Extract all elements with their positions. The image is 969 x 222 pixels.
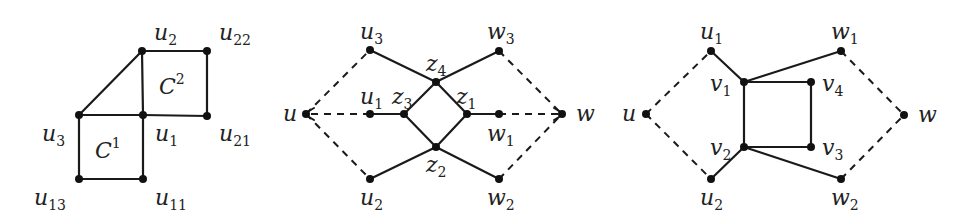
label-subscript: 2 [850,197,859,213]
dashed-edge-u-u2 [306,114,370,179]
label-subscript: 1 [468,96,477,112]
vertex-label-u2: u2 [154,20,177,48]
vertex-w3 [495,47,503,55]
vertex-u22 [203,47,211,55]
vertex-label-u: u [283,101,297,126]
label-subscript: 1 [850,31,859,47]
vertex-v2 [740,143,748,151]
vertex-z4 [432,78,440,86]
cycle-label-C2: C2 [159,71,185,99]
vertex-v3 [807,143,815,151]
vertex-label-v4: v4 [822,71,843,99]
dashed-edge-u-u2 [646,114,711,179]
vertex-w2 [495,175,503,183]
dashed-edge-w1-w [841,51,904,115]
vertex-label-u3: u3 [360,19,383,47]
vertex-label-u21: u21 [219,121,251,149]
vertex-u [302,110,310,118]
label-subscript: 2 [506,197,515,213]
figure-a-two-cycles: u2u22u3u1u21u13u11C2C1 [34,20,251,213]
vertex-label-w: w [576,101,595,126]
edge-u2-u3 [79,51,142,115]
label-subscript: 3 [56,133,65,149]
label-subscript: 2 [714,197,723,213]
vertex-z2 [432,143,440,151]
label-subscript: 3 [374,31,383,47]
label-subscript: 2 [168,32,177,48]
vertex-label-w2: w2 [487,185,515,213]
figure-c-v-cycle-gadget: uu1v1v2u2v4v3w1w2w [622,19,937,213]
vertex-u1 [139,111,147,119]
vertex-u [642,110,650,118]
vertex-label-v1: v1 [710,71,731,99]
vertex-label-w2: w2 [831,185,859,213]
vertex-u21 [203,112,211,120]
label-subscript: 4 [438,63,447,79]
vertex-label-w: w [918,102,937,127]
label-subscript: 2 [722,147,731,163]
vertex-u2 [366,175,374,183]
dashed-edge-w3-w [499,51,562,114]
label-subscript: 1 [506,133,515,149]
label-subscript: 1 [169,133,178,149]
vertex-label-v2: v2 [710,135,731,163]
label-superscript: 1 [112,135,121,151]
vertex-v4 [807,78,815,86]
vertex-label-v3: v3 [822,135,843,163]
dashed-edge-w2-w [841,115,904,179]
label-subscript: 4 [834,83,843,99]
vertex-label-u1: u1 [155,121,178,149]
label-superscript: 2 [176,71,185,87]
edge-z3-z2 [404,114,436,147]
vertex-w [900,111,908,119]
vertex-label-z1: z1 [455,84,477,112]
vertex-label-u1: u1 [360,84,383,112]
label-subscript: 3 [404,96,413,112]
vertex-label-w1: w1 [487,121,515,149]
edge-z1-z2 [436,114,467,147]
edge-u1-u2 [142,51,143,115]
graph-figure-canvas: u2u22u3u1u21u13u11C2C1 uu3u1z3z4z1z2u2w3… [0,0,969,222]
vertex-u11 [139,175,147,183]
vertex-w [558,110,566,118]
cycle-label-C1: C1 [95,135,121,163]
vertex-label-z2: z2 [425,152,447,180]
vertex-label-u3: u3 [42,121,65,149]
label-subscript: 21 [233,133,251,149]
label-subscript: 2 [374,197,383,213]
dashed-edge-u-u1 [646,51,711,114]
vertex-label-u2: u2 [360,185,383,213]
vertex-label-u22: u22 [219,20,251,48]
vertex-label-z4: z4 [425,51,447,79]
vertex-u1 [366,110,374,118]
vertex-u2 [707,175,715,183]
vertex-label-w1: w1 [831,19,859,47]
label-subscript: 11 [169,197,187,213]
label-subscript: 2 [438,164,447,180]
vertex-u2 [138,47,146,55]
label-subscript: 1 [722,83,731,99]
vertex-u1 [707,47,715,55]
vertex-label-u11: u11 [155,185,187,213]
vertex-w1 [837,47,845,55]
vertex-u3 [75,111,83,119]
vertex-label-u: u [622,101,636,126]
vertex-v1 [740,78,748,86]
vertex-w2 [837,175,845,183]
vertex-label-u13: u13 [34,185,66,213]
vertex-label-u2: u2 [700,185,723,213]
label-subscript: 1 [374,96,383,112]
vertex-label-w3: w3 [487,19,515,47]
vertex-label-z3: z3 [391,84,413,112]
label-subscript: 1 [714,31,723,47]
vertex-u3 [366,46,374,54]
vertex-u13 [75,175,83,183]
figure-b-z-cycle-gadget: uu3u1z3z4z1z2u2w3w1w2w [283,19,595,213]
label-subscript: 3 [834,147,843,163]
label-subscript: 3 [506,31,515,47]
edge-u21-u1 [143,115,207,116]
vertex-label-u1: u1 [700,19,723,47]
label-subscript: 22 [233,32,251,48]
vertex-w1 [495,110,503,118]
label-subscript: 13 [48,197,66,213]
